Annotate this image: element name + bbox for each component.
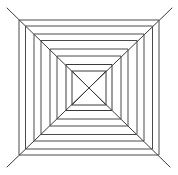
figure-canvas bbox=[0, 0, 178, 175]
nested-squares-drawing bbox=[0, 0, 178, 175]
